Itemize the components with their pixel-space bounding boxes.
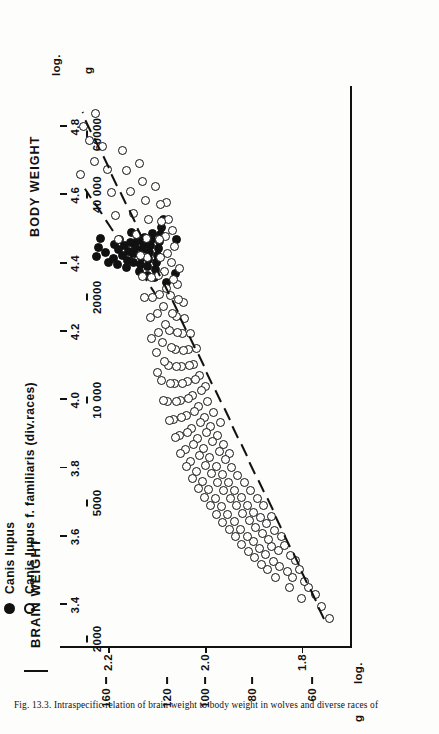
data-point-series-1: [166, 379, 175, 388]
data-point-series-1: [111, 211, 120, 220]
x-tick: [60, 535, 67, 537]
data-point-series-1: [151, 182, 160, 191]
data-point-series-1: [196, 418, 205, 427]
data-point-series-0: [92, 252, 101, 261]
scatter-plot-area: 3.43.63.84.04.24.44.64.82000500010 00020…: [60, 86, 352, 648]
data-point-series-1: [156, 253, 165, 262]
regression-line-series-1: [232, 426, 239, 439]
data-point-series-1: [237, 540, 246, 549]
data-point-series-1: [146, 313, 155, 322]
data-point-series-1: [269, 557, 278, 566]
data-point-series-1: [244, 547, 253, 556]
data-point-series-1: [215, 447, 224, 456]
data-point-series-1: [160, 357, 169, 366]
figure-rotated-container: Canis lupus Canis lupus f. familiaris (d…: [0, 0, 439, 734]
data-point-series-1: [202, 428, 211, 437]
data-point-series-1: [197, 386, 206, 395]
data-point-series-1: [167, 343, 176, 352]
data-point-series-1: [257, 560, 266, 569]
data-point-series-1: [156, 200, 165, 209]
x-tick-label: 4.2: [69, 323, 81, 340]
x-axis-unit-g: g: [82, 67, 94, 74]
x-tick-gram: [86, 499, 88, 506]
data-point-series-1: [325, 614, 334, 623]
data-point-series-1: [136, 251, 145, 260]
data-point-series-1: [182, 462, 191, 471]
data-point-series-1: [191, 375, 200, 384]
x-tick-label-gram: 5000: [91, 490, 103, 517]
x-tick: [60, 262, 67, 264]
x-tick: [60, 193, 67, 195]
data-point-series-1: [135, 159, 144, 168]
x-axis-unit-log: log.: [50, 54, 62, 76]
legend-label-canis-lupus: Canis lupus: [3, 522, 17, 594]
y-axis-unit-log: log.: [352, 662, 364, 684]
data-point-series-1: [253, 494, 262, 503]
x-tick-gram: [86, 397, 88, 404]
data-point-series-0: [113, 260, 122, 269]
y-tick-gram: [166, 677, 168, 684]
y-tick-gram: [204, 677, 206, 684]
x-tick-label-gram: 20000: [91, 281, 103, 314]
y-tick-label: 1.8: [296, 654, 308, 680]
data-point-series-1: [85, 136, 94, 145]
data-point-series-1: [138, 177, 147, 186]
data-point-series-1: [216, 418, 225, 427]
data-point-series-1: [251, 523, 260, 532]
x-tick-label: 3.4: [69, 597, 81, 614]
data-point-series-1: [243, 532, 252, 541]
y-tick-label: 2.2: [102, 654, 114, 680]
x-tick-label: 4.0: [69, 392, 81, 409]
data-point-series-1: [76, 170, 85, 179]
data-point-series-0: [96, 234, 105, 243]
data-point-series-1: [144, 215, 153, 224]
data-point-series-1: [165, 416, 174, 425]
regression-line-series-1: [223, 408, 230, 421]
title-divider-rule: [24, 670, 48, 672]
data-point-series-1: [147, 273, 156, 282]
data-point-series-1: [203, 397, 212, 406]
regression-line-series-0: [105, 220, 114, 232]
data-point-series-1: [221, 455, 230, 464]
y-tick: [108, 646, 110, 653]
data-point-series-1: [159, 396, 168, 405]
x-tick-label: 4.4: [69, 255, 81, 272]
data-point-series-1: [189, 440, 198, 449]
regression-line-series-1: [240, 444, 247, 457]
data-point-series-1: [168, 226, 177, 235]
data-point-series-1: [271, 573, 280, 582]
data-point-series-1: [155, 235, 164, 244]
data-point-series-1: [107, 188, 116, 197]
data-point-series-1: [223, 510, 232, 519]
regression-line-series-1: [111, 174, 118, 187]
figure-caption: Fig. 13.3. Intraspecific relation of bra…: [14, 700, 426, 711]
data-point-series-1: [259, 502, 268, 511]
x-tick-gram: [86, 635, 88, 642]
y-axis-unit-g: g: [352, 715, 364, 722]
data-point-series-1: [118, 146, 127, 155]
data-point-series-1: [175, 264, 184, 273]
data-point-series-1: [195, 451, 204, 460]
x-tick: [60, 398, 67, 400]
x-tick-label: 4.6: [69, 187, 81, 204]
data-point-series-1: [246, 486, 255, 495]
data-point-series-1: [152, 348, 161, 357]
data-point-series-1: [140, 293, 149, 302]
data-point-series-1: [190, 407, 199, 416]
data-point-series-1: [200, 493, 209, 502]
x-tick: [60, 603, 67, 605]
data-point-series-1: [90, 157, 99, 166]
data-point-series-1: [122, 166, 131, 175]
x-tick-label-gram: 10 000: [91, 382, 103, 419]
y-tick-gram: [105, 677, 107, 684]
data-point-series-1: [141, 196, 150, 205]
data-point-series-1: [206, 502, 215, 511]
y-tick: [205, 646, 207, 653]
data-point-series-1: [207, 469, 216, 478]
data-point-series-1: [176, 449, 185, 458]
data-point-series-1: [245, 516, 254, 525]
data-point-series-1: [179, 346, 188, 355]
y-tick: [302, 646, 304, 653]
data-point-series-1: [185, 361, 194, 370]
data-point-series-1: [283, 567, 292, 576]
